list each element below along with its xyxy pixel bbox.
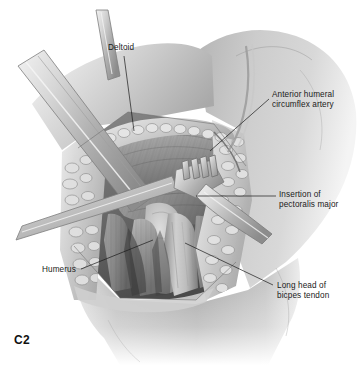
- label-artery-line-2: circumflex artery: [272, 100, 334, 110]
- anatomy-artwork: [0, 0, 361, 365]
- label-insertion-line-2: pectoralis major: [279, 200, 338, 210]
- surgical-illustration-figure: Deltoid Anterior humeral circumflex arte…: [0, 0, 361, 365]
- label-biceps-line-2: bicpes tendon: [277, 291, 329, 301]
- label-long-head-of-biceps-tendon: Long head of bicpes tendon: [277, 281, 329, 301]
- label-humerus: Humerus: [42, 265, 76, 275]
- label-anterior-humeral-circumflex-artery: Anterior humeral circumflex artery: [272, 90, 334, 110]
- label-deltoid: Deltoid: [108, 43, 134, 53]
- label-artery-line-1: Anterior humeral: [272, 90, 334, 100]
- label-deltoid-line-1: Deltoid: [108, 43, 134, 53]
- label-biceps-line-1: Long head of: [277, 281, 329, 291]
- figure-id-label: C2: [14, 333, 30, 347]
- label-insertion-line-1: Insertion of: [279, 190, 338, 200]
- label-insertion-of-pectoralis-major: Insertion of pectoralis major: [279, 190, 338, 210]
- label-humerus-line-1: Humerus: [42, 265, 76, 275]
